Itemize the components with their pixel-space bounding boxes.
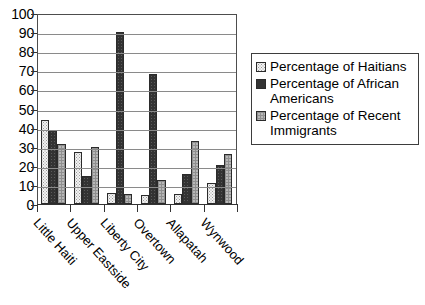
y-tick-label: 0 (0, 198, 34, 212)
bar (91, 147, 99, 204)
y-axis: 0102030405060708090100 (0, 0, 34, 215)
x-axis-label: Liberty City (98, 216, 151, 273)
bar (124, 194, 132, 205)
bar (107, 193, 115, 204)
bar (41, 120, 49, 204)
y-tick-label: 80 (0, 45, 34, 59)
x-axis-label: Wynwood (198, 216, 246, 267)
gridline (38, 187, 236, 188)
x-tick-mark (37, 205, 38, 212)
bar (141, 195, 149, 204)
gridline (38, 72, 236, 73)
legend-swatch-icon (256, 79, 266, 89)
legend-item: Percentage of Haitians (256, 59, 414, 74)
y-tick-mark (31, 52, 37, 53)
bar (57, 144, 65, 204)
y-tick-mark (31, 14, 37, 15)
y-tick-label: 30 (0, 141, 34, 155)
x-tick-mark (204, 205, 205, 212)
x-axis-label: Allapatah (165, 216, 211, 265)
gridline (38, 149, 236, 150)
x-axis-label: Upper Eastside (65, 216, 134, 291)
y-tick-label: 40 (0, 122, 34, 136)
gridline (38, 168, 236, 169)
y-tick-mark (31, 186, 37, 187)
y-tick-label: 70 (0, 64, 34, 78)
bar (157, 180, 165, 204)
plot-area (37, 14, 237, 205)
gridline (38, 34, 236, 35)
y-tick-label: 90 (0, 26, 34, 40)
bar (224, 154, 232, 204)
y-tick-mark (31, 167, 37, 168)
y-tick-mark (31, 33, 37, 34)
legend-label: Percentage of African Americans (270, 76, 414, 106)
y-tick-label: 20 (0, 160, 34, 174)
bar-chart: 0102030405060708090100 Little HaitiUpper… (0, 0, 425, 305)
x-axis-label: Overtown (131, 216, 178, 266)
bar (216, 165, 224, 204)
bar (82, 176, 90, 204)
y-tick-mark (31, 71, 37, 72)
gridline (38, 53, 236, 54)
x-tick-mark (237, 205, 238, 212)
x-tick-mark (70, 205, 71, 212)
bar (182, 174, 190, 204)
legend-label: Percentage of Recent Immigrants (270, 108, 414, 138)
bar (174, 194, 182, 204)
bar (149, 74, 157, 204)
y-tick-mark (31, 90, 37, 91)
y-tick-label: 100 (0, 7, 34, 21)
gridline (38, 111, 236, 112)
y-tick-mark (31, 129, 37, 130)
x-axis-label: Little Haiti (31, 216, 79, 267)
chart-legend: Percentage of Haitians Percentage of Afr… (251, 53, 419, 145)
legend-item: Percentage of Recent Immigrants (256, 108, 414, 138)
gridline (38, 130, 236, 131)
bar (116, 32, 124, 204)
y-tick-mark (31, 110, 37, 111)
x-tick-mark (137, 205, 138, 212)
x-tick-mark (170, 205, 171, 212)
y-tick-mark (31, 148, 37, 149)
legend-label: Percentage of Haitians (270, 59, 407, 74)
legend-item: Percentage of African Americans (256, 76, 414, 106)
y-tick-label: 50 (0, 103, 34, 117)
bar (191, 141, 199, 204)
y-tick-label: 10 (0, 179, 34, 193)
bars-layer (38, 15, 236, 204)
bar (74, 152, 82, 204)
legend-swatch-icon (256, 62, 266, 72)
x-tick-mark (104, 205, 105, 212)
legend-swatch-icon (256, 111, 266, 121)
y-tick-label: 60 (0, 83, 34, 97)
gridline (38, 91, 236, 92)
